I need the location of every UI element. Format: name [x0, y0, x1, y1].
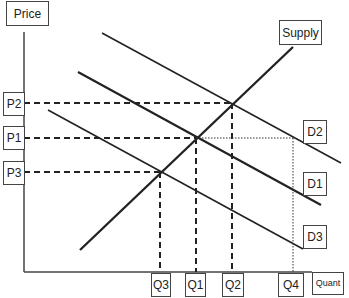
price-level-p3: P3 — [3, 161, 25, 185]
quantity-level-q4: Q4 — [278, 273, 304, 297]
quantity-axis-label: Quant — [312, 272, 344, 295]
demand-curve-d3 — [48, 110, 303, 249]
price-level-p1: P1 — [3, 126, 25, 150]
demand-label-d2: D2 — [303, 120, 327, 144]
quantity-level-q1: Q1 — [185, 273, 206, 297]
price-axis-label: Price — [6, 1, 49, 26]
demand-label-d3: D3 — [303, 225, 327, 249]
price-level-p2: P2 — [3, 92, 25, 116]
demand-label-d1: D1 — [303, 172, 327, 196]
quantity-level-q3: Q3 — [151, 273, 171, 297]
supply-label: Supply — [279, 20, 322, 45]
supply-curve — [80, 47, 293, 250]
quantity-level-q2: Q2 — [222, 273, 244, 297]
